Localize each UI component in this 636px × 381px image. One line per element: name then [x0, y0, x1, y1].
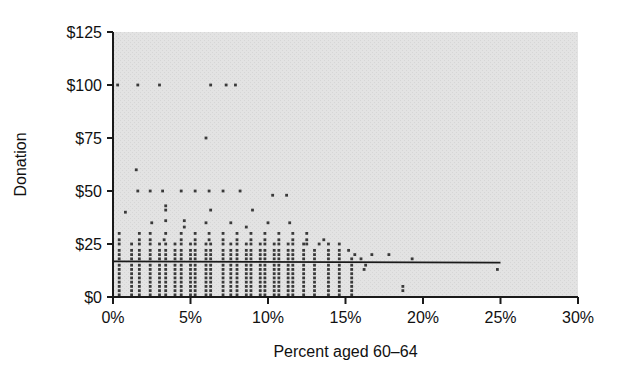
data-point — [124, 211, 127, 214]
data-point — [189, 293, 192, 296]
data-point — [118, 272, 121, 275]
data-point — [302, 293, 305, 296]
data-point — [338, 243, 341, 246]
x-axis-tick-label: 0% — [101, 309, 124, 326]
data-point — [138, 232, 141, 235]
data-point — [259, 264, 262, 267]
data-point — [264, 253, 267, 256]
data-point — [164, 243, 167, 246]
data-point — [149, 285, 152, 288]
data-point — [313, 257, 316, 260]
data-point — [236, 281, 239, 284]
data-point — [229, 272, 232, 275]
data-point — [291, 253, 294, 256]
data-point — [222, 238, 225, 241]
data-point — [209, 243, 212, 246]
data-point — [194, 264, 197, 267]
data-point — [205, 289, 208, 292]
x-axis-tick-label: 20% — [407, 309, 439, 326]
data-point — [189, 281, 192, 284]
data-point — [209, 253, 212, 256]
data-point — [194, 293, 197, 296]
y-axis-tick-label: $0 — [84, 289, 102, 306]
data-point — [158, 268, 161, 271]
data-point — [245, 281, 248, 284]
data-point — [291, 249, 294, 252]
data-point — [302, 285, 305, 288]
data-point — [250, 253, 253, 256]
data-point — [180, 249, 183, 252]
data-point — [138, 243, 141, 246]
data-point — [164, 272, 167, 275]
data-point — [350, 289, 353, 292]
data-point — [250, 232, 253, 235]
data-point — [273, 281, 276, 284]
data-point — [130, 272, 133, 275]
data-point — [264, 272, 267, 275]
data-point — [180, 268, 183, 271]
data-point — [245, 277, 248, 280]
data-point — [277, 238, 280, 241]
data-point — [327, 293, 330, 296]
data-point — [205, 277, 208, 280]
data-point — [130, 253, 133, 256]
data-point — [118, 238, 121, 241]
data-point — [305, 238, 308, 241]
data-point — [250, 264, 253, 267]
data-point — [130, 257, 133, 260]
data-point — [291, 268, 294, 271]
data-point — [302, 253, 305, 256]
data-point — [271, 194, 274, 197]
data-point — [130, 268, 133, 271]
data-point — [277, 277, 280, 280]
data-point — [118, 293, 121, 296]
data-point — [338, 253, 341, 256]
data-point — [291, 289, 294, 292]
data-point — [194, 243, 197, 246]
data-point — [338, 285, 341, 288]
data-point — [302, 281, 305, 284]
data-point — [302, 289, 305, 292]
data-point — [149, 264, 152, 267]
scatter-plot-figure: $0$25$50$75$100$1250%5%10%15%20%25%30%Pe… — [0, 0, 636, 381]
data-point — [264, 293, 267, 296]
data-point — [180, 281, 183, 284]
data-point — [118, 253, 121, 256]
data-point — [239, 190, 242, 193]
data-point — [236, 232, 239, 235]
data-point — [273, 277, 276, 280]
data-point — [174, 249, 177, 252]
data-point — [250, 272, 253, 275]
data-point — [250, 289, 253, 292]
data-point — [291, 232, 294, 235]
data-point — [138, 272, 141, 275]
data-point — [209, 272, 212, 275]
data-point — [205, 272, 208, 275]
data-point — [158, 289, 161, 292]
data-point — [161, 190, 164, 193]
data-point — [229, 293, 232, 296]
data-point — [302, 268, 305, 271]
data-point — [149, 243, 152, 246]
data-point — [149, 268, 152, 271]
data-point — [322, 238, 325, 241]
data-point — [118, 232, 121, 235]
data-point — [174, 272, 177, 275]
data-point — [118, 289, 121, 292]
data-point — [158, 243, 161, 246]
data-point — [313, 268, 316, 271]
data-point — [302, 249, 305, 252]
data-point — [164, 249, 167, 252]
data-point — [287, 272, 290, 275]
data-point — [229, 257, 232, 260]
data-point — [180, 293, 183, 296]
data-point — [138, 289, 141, 292]
data-point — [259, 243, 262, 246]
data-point — [327, 249, 330, 252]
y-axis-tick-label: $50 — [75, 183, 102, 200]
data-point — [287, 277, 290, 280]
data-point — [350, 281, 353, 284]
data-point — [245, 257, 248, 260]
data-point — [164, 293, 167, 296]
data-point — [236, 238, 239, 241]
